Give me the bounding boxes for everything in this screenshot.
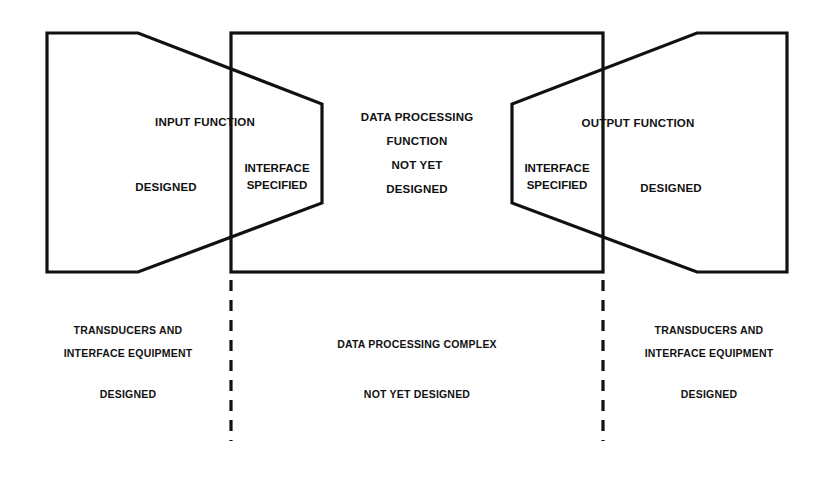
data-processing-line-4: DESIGNED bbox=[386, 184, 448, 196]
bottom-right-line-2: INTERFACE EQUIPMENT bbox=[645, 348, 774, 359]
input-function-shape bbox=[47, 33, 322, 272]
bottom-center-status: NOT YET DESIGNED bbox=[364, 389, 470, 400]
input-function-label: INPUT FUNCTION bbox=[155, 117, 255, 129]
bottom-right-line-1: TRANSDUCERS AND bbox=[655, 325, 764, 336]
data-processing-line-1: DATA PROCESSING bbox=[361, 112, 474, 124]
bottom-right-status: DESIGNED bbox=[681, 389, 737, 400]
output-function-label: OUTPUT FUNCTION bbox=[582, 118, 695, 130]
bottom-left-status: DESIGNED bbox=[100, 389, 156, 400]
bottom-left-line-2: INTERFACE EQUIPMENT bbox=[64, 348, 193, 359]
left-interface-line-1: INTERFACE bbox=[244, 160, 309, 177]
right-interface-line-2: SPECIFIED bbox=[524, 177, 589, 194]
data-processing-line-2: FUNCTION bbox=[386, 136, 447, 148]
input-function-status-label: DESIGNED bbox=[135, 182, 197, 194]
bottom-left-line-1: TRANSDUCERS AND bbox=[74, 325, 183, 336]
left-interface-line-2: SPECIFIED bbox=[244, 177, 309, 194]
output-function-status-label: DESIGNED bbox=[640, 183, 702, 195]
output-function-shape bbox=[512, 33, 787, 272]
right-interface-label-group: INTERFACE SPECIFIED bbox=[524, 160, 589, 195]
right-interface-line-1: INTERFACE bbox=[524, 160, 589, 177]
bottom-center-line-1: DATA PROCESSING COMPLEX bbox=[337, 339, 497, 350]
data-processing-line-3: NOT YET bbox=[391, 160, 442, 172]
diagram-canvas: INPUT FUNCTION DESIGNED INTERFACE SPECIF… bbox=[0, 0, 835, 482]
data-processing-function-shape bbox=[231, 33, 603, 272]
diagram-shapes bbox=[0, 0, 835, 482]
left-interface-label-group: INTERFACE SPECIFIED bbox=[244, 160, 309, 195]
